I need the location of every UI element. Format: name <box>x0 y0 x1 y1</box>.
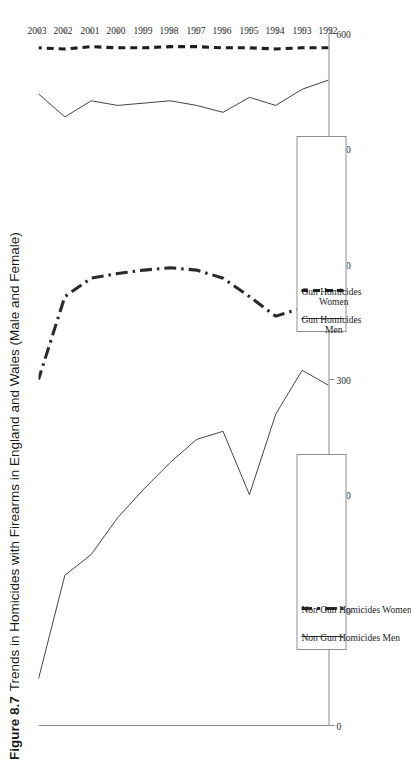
series-line-non-gun-homicides-women <box>38 268 328 380</box>
legend-non-gun-homicides: Non Gun Homicides MenNon Gun Homicides W… <box>296 454 346 650</box>
legend-label: Non Gun Homicides Women <box>301 605 411 615</box>
series-line-gun-homicides-men <box>38 80 328 117</box>
series-line-non-gun-homicides-men <box>38 370 328 679</box>
figure-number: Figure 8.7 <box>6 696 21 760</box>
legend-label: Gun Homicides Men <box>301 315 361 335</box>
y-axis-tickmark <box>329 726 334 727</box>
y-axis-tick-label: 600 <box>336 30 350 40</box>
plot-area <box>38 34 329 726</box>
plot-lines <box>38 34 328 725</box>
figure-title: Trends in Homicides with Firearms in Eng… <box>6 232 21 691</box>
chart-svg <box>38 34 328 725</box>
legend-label: Non Gun Homicides Men <box>301 633 399 643</box>
y-axis-tickmark <box>329 380 334 381</box>
y-axis-tick-label: 0 <box>336 722 341 732</box>
legend-gun-homicides: Gun Homicides MenGun Homicides Women <box>296 136 346 332</box>
figure-caption: Figure 8.7Trends in Homicides with Firea… <box>4 20 28 760</box>
y-axis-tick-label: 300 <box>336 376 350 386</box>
legend-label: Gun Homicides Women <box>301 287 361 307</box>
series-line-gun-homicides-women <box>38 47 328 49</box>
